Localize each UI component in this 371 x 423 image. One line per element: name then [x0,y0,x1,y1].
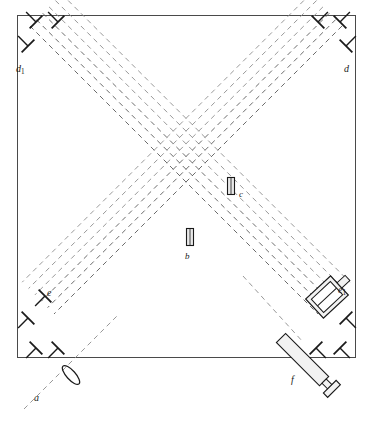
interferometer-diagram [0,0,371,423]
label-subscript: 1 [21,68,25,76]
label-b: b [185,252,190,261]
collimating-lens [60,363,83,387]
label-d: d [344,64,349,74]
label-c: c [239,190,243,199]
label-subscript: 1 [342,289,346,297]
label-e: e [47,288,51,298]
label-a: a [34,393,39,403]
compensator-plate-c [228,178,235,195]
label-e1: e1 [338,285,346,297]
label-d1: d1 [16,64,25,76]
figure-canvas: abcdd1ee1f [0,0,371,423]
label-f: f [291,375,294,385]
beam-splitter-plate-b [187,229,194,246]
instrument-frame [18,16,356,358]
